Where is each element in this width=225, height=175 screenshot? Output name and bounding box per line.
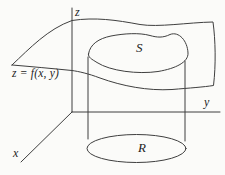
z-axis-label: z — [75, 6, 80, 18]
region-r-ellipse — [87, 135, 186, 163]
x-axis-line — [21, 112, 72, 162]
figure-line-art — [0, 0, 225, 175]
y-axis-label: y — [204, 96, 209, 108]
calculus-surface-figure: z y x z = f(x, y) S R — [0, 0, 225, 175]
region-s-label: S — [136, 41, 143, 54]
surface-equation-label: z = f(x, y) — [12, 68, 59, 80]
region-r-label: R — [138, 141, 146, 154]
x-axis-label: x — [13, 147, 18, 159]
